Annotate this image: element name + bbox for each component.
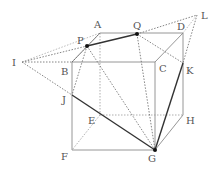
edge-DC [155, 33, 183, 62]
section-edge-KG [155, 63, 183, 150]
label-D: D [177, 21, 185, 32]
label-H: H [186, 115, 195, 126]
edge-GH [155, 115, 183, 150]
point-P [85, 44, 89, 48]
line-LK [183, 15, 197, 63]
section-edge-PQ [87, 34, 137, 46]
label-E: E [88, 115, 95, 126]
label-G: G [148, 153, 156, 164]
line-QG [137, 34, 155, 150]
point-Q [135, 32, 139, 36]
cube-diagram: A D B C E H F G P Q I L K J [0, 0, 218, 175]
line-QK [137, 34, 183, 63]
marked-points [85, 32, 157, 152]
label-L: L [201, 10, 208, 21]
label-K: K [186, 65, 194, 76]
line-IP [22, 46, 87, 62]
label-B: B [61, 66, 68, 77]
section-polygon [72, 34, 183, 150]
label-Q: Q [133, 20, 141, 31]
label-I: I [12, 57, 16, 68]
diagram-canvas: A D B C E H F G P Q I L K J [0, 0, 218, 175]
label-P: P [77, 35, 84, 46]
line-LD [183, 15, 197, 33]
label-F: F [61, 151, 68, 162]
point-G [153, 148, 157, 152]
line-PJ [72, 46, 87, 95]
label-J: J [61, 94, 66, 105]
edge-EF [72, 115, 100, 150]
label-C: C [159, 63, 167, 74]
line-QL [137, 15, 197, 34]
section-edge-JG [72, 95, 155, 150]
label-A: A [93, 19, 102, 30]
